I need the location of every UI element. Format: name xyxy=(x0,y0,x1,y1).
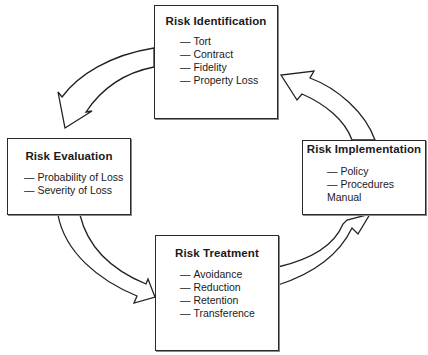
node-title: Risk Evaluation xyxy=(8,150,130,162)
node-title: Risk Identification xyxy=(155,15,277,27)
node-items: Avoidance Reduction Retention Transferen… xyxy=(180,268,278,320)
node-title: Risk Implementation xyxy=(303,143,425,155)
node-item: Contract xyxy=(180,48,277,61)
arrow-identification-to-evaluation xyxy=(58,48,154,128)
node-item: Tort xyxy=(180,35,277,48)
node-item: Procedures Manual xyxy=(327,178,425,204)
node-item: Avoidance xyxy=(180,268,278,281)
node-item: Fidelity xyxy=(180,61,277,74)
node-risk-identification: Risk Identification Tort Contract Fideli… xyxy=(154,5,278,119)
node-item: Reduction xyxy=(180,281,278,294)
node-item: Property Loss xyxy=(180,74,277,87)
arrow-treatment-to-implementation xyxy=(278,214,370,285)
arrow-implementation-to-identification xyxy=(281,71,375,140)
node-items: Probability of Loss Severity of Loss xyxy=(24,171,130,197)
node-item: Policy xyxy=(327,165,425,178)
node-title: Risk Treatment xyxy=(156,247,278,259)
node-risk-implementation: Risk Implementation Policy Procedures Ma… xyxy=(302,140,426,215)
node-items: Tort Contract Fidelity Property Loss xyxy=(180,35,277,87)
node-item: Retention xyxy=(180,294,278,307)
node-item: Transference xyxy=(180,307,278,320)
arrow-evaluation-to-treatment xyxy=(58,215,155,303)
node-items: Policy Procedures Manual xyxy=(327,165,425,204)
node-risk-evaluation: Risk Evaluation Probability of Loss Seve… xyxy=(7,138,131,215)
node-item: Severity of Loss xyxy=(24,184,130,197)
node-risk-treatment: Risk Treatment Avoidance Reduction Reten… xyxy=(155,235,279,351)
node-item: Probability of Loss xyxy=(24,171,130,184)
